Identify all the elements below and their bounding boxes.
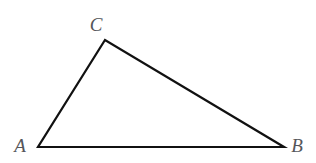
vertex-label-c: C — [90, 15, 103, 34]
triangle-outline — [38, 40, 284, 147]
vertex-label-a: A — [14, 136, 26, 155]
figure-canvas: A B C — [0, 0, 316, 163]
vertex-label-b: B — [291, 136, 303, 155]
triangle-shape — [0, 0, 316, 163]
